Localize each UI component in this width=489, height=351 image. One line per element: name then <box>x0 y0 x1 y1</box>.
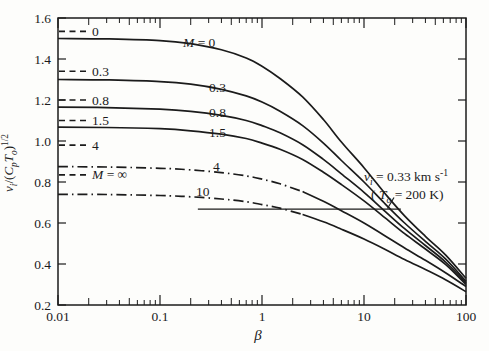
curve-M-10-tail <box>303 214 466 291</box>
curve-label-0.8: 0.8 <box>209 105 226 120</box>
x-tick-label: 100 <box>456 309 477 324</box>
y-tick-label: 0.6 <box>34 216 51 231</box>
y-tick-label: 0.8 <box>34 175 51 190</box>
y-tick-label: 1.4 <box>34 52 51 67</box>
x-tick-label: 1 <box>259 309 266 324</box>
asymptote-label: 1.5 <box>92 113 109 128</box>
y-tick-label: 1.6 <box>34 11 51 26</box>
curve-label-10: 10 <box>196 184 210 199</box>
y-axis-title: vi/(CpTo)1/2 <box>0 134 19 192</box>
y-tick-label: 0.2 <box>34 298 51 313</box>
x-axis-title: β <box>253 327 262 343</box>
y-tick-label: 1.0 <box>34 134 51 149</box>
asymptote-label: 0.3 <box>92 64 109 79</box>
curve-M-10 <box>58 194 303 214</box>
asymptote-label: 0 <box>92 24 99 39</box>
y-tick-label: 0.4 <box>34 257 51 272</box>
asymptote-label: 4 <box>92 138 99 153</box>
curve-M-1.5 <box>58 127 466 284</box>
chart-canvas: 0.010.11101000.20.40.60.81.01.21.41.6vi/… <box>0 0 489 351</box>
curve-label-4: 4 <box>213 159 220 174</box>
asymptote-label: 0.8 <box>92 93 109 108</box>
curve-label-0.3: 0.3 <box>209 80 226 95</box>
y-tick-label: 1.2 <box>34 93 51 108</box>
asymptote-label: M = ∞ <box>91 167 127 182</box>
plot-frame <box>58 18 466 305</box>
curve-label-M = 0: M = 0 <box>182 35 216 50</box>
x-tick-label: 10 <box>357 309 371 324</box>
x-tick-label: 0.1 <box>152 309 169 324</box>
curve-M-4-tail <box>303 192 466 287</box>
curve-M-M = 0 <box>58 39 466 279</box>
figure: 0.010.11101000.20.40.60.81.01.21.41.6vi/… <box>0 0 489 351</box>
curve-label-1.5: 1.5 <box>209 125 226 140</box>
